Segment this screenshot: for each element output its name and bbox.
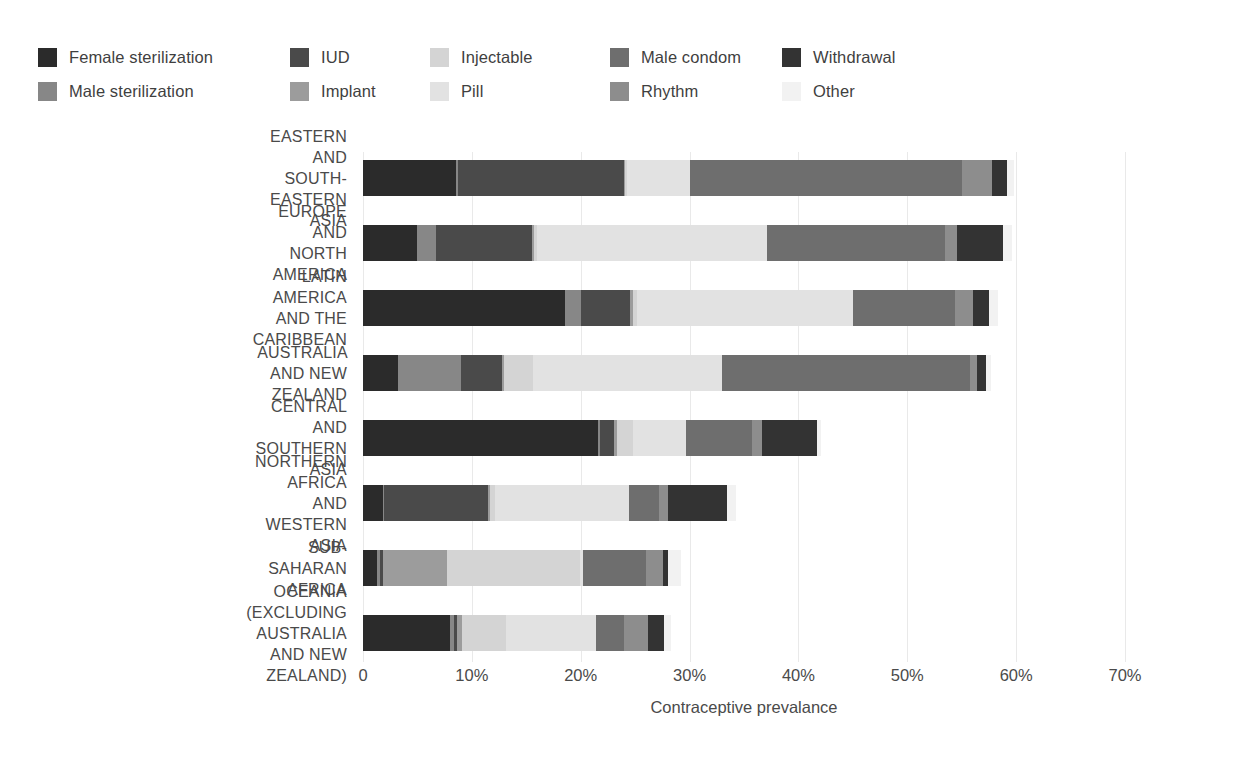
bar-segment[interactable] <box>722 355 970 391</box>
bar-segment[interactable] <box>955 290 972 326</box>
x-axis: Contraceptive prevalance 010%20%30%40%50… <box>363 662 1125 722</box>
stacked-bar[interactable] <box>363 485 736 521</box>
legend-item[interactable]: Male condom <box>610 48 782 67</box>
plot-area: EASTERN AND SOUTH-EASTERN ASIAEUROPE AND… <box>363 152 1125 662</box>
bar-segment[interactable] <box>537 225 767 261</box>
bar-segment[interactable] <box>686 420 751 456</box>
bar-segment[interactable] <box>992 160 1007 196</box>
bar-segment[interactable] <box>565 290 580 326</box>
bar-segment[interactable] <box>767 225 946 261</box>
bar-segment[interactable] <box>668 550 681 586</box>
bar-segment[interactable] <box>727 485 737 521</box>
bar-segment[interactable] <box>363 290 565 326</box>
bar-segment[interactable] <box>383 550 447 586</box>
x-tick-label: 70% <box>1108 666 1141 685</box>
legend-swatch-icon <box>430 82 449 101</box>
legend-swatch-icon <box>38 48 57 67</box>
legend-item[interactable]: Other <box>782 82 962 101</box>
x-tick-label: 50% <box>891 666 924 685</box>
bar-segment[interactable] <box>363 355 398 391</box>
legend-item[interactable]: Female sterilization <box>38 48 290 67</box>
bar-segment[interactable] <box>633 420 686 456</box>
bar-segment[interactable] <box>624 615 648 651</box>
legend-item-label: Male sterilization <box>69 82 194 101</box>
stacked-bar[interactable] <box>363 160 1014 196</box>
bar-segment[interactable] <box>962 160 992 196</box>
bar-row: AUSTRALIA AND NEW ZEALAND <box>363 347 1125 399</box>
legend-item-label: Pill <box>461 82 483 101</box>
legend-item[interactable]: Injectable <box>430 48 610 67</box>
legend-swatch-icon <box>782 48 801 67</box>
bar-row: OCEANIA (EXCLUDING AUSTRALIA AND NEW ZEA… <box>363 607 1125 659</box>
legend-swatch-icon <box>782 82 801 101</box>
bar-segment[interactable] <box>363 160 456 196</box>
bar-row: EUROPE AND NORTH AMERICA <box>363 217 1125 269</box>
stacked-bar[interactable] <box>363 615 671 651</box>
bar-segment[interactable] <box>617 420 633 456</box>
stacked-bar[interactable] <box>363 290 998 326</box>
bar-segment[interactable] <box>1003 225 1012 261</box>
bar-row: NORTHERN AFRICA AND WESTERN ASIA <box>363 477 1125 529</box>
bar-segment[interactable] <box>817 420 821 456</box>
bar-segment[interactable] <box>989 290 998 326</box>
bar-segment[interactable] <box>363 550 377 586</box>
bar-segment[interactable] <box>664 615 671 651</box>
bar-segment[interactable] <box>506 615 596 651</box>
legend-item[interactable]: Implant <box>290 82 430 101</box>
bar-segment[interactable] <box>384 485 489 521</box>
bar-segment[interactable] <box>627 160 689 196</box>
bar-segment[interactable] <box>600 420 614 456</box>
bar-segment[interactable] <box>363 615 450 651</box>
bar-segment[interactable] <box>583 550 646 586</box>
stacked-bar[interactable] <box>363 225 1012 261</box>
bar-segment[interactable] <box>977 355 986 391</box>
bar-segment[interactable] <box>853 290 955 326</box>
legend-item[interactable]: Withdrawal <box>782 48 962 67</box>
bar-segment[interactable] <box>629 485 659 521</box>
bar-segment[interactable] <box>363 485 383 521</box>
bar-segment[interactable] <box>461 355 502 391</box>
bar-segment[interactable] <box>637 290 853 326</box>
stacked-bar[interactable] <box>363 355 991 391</box>
bar-segment[interactable] <box>495 485 629 521</box>
bar-segment[interactable] <box>668 485 727 521</box>
bar-segment[interactable] <box>458 160 625 196</box>
bar-segment[interactable] <box>762 420 816 456</box>
bar-segment[interactable] <box>447 550 580 586</box>
stacked-bar-chart: EASTERN AND SOUTH-EASTERN ASIAEUROPE AND… <box>0 140 1245 700</box>
legend-item[interactable]: IUD <box>290 48 430 67</box>
legend-item[interactable]: Rhythm <box>610 82 782 101</box>
legend-swatch-icon <box>610 82 629 101</box>
bar-segment[interactable] <box>690 160 962 196</box>
legend-item[interactable]: Pill <box>430 82 610 101</box>
bar-segment[interactable] <box>646 550 663 586</box>
bar-segment[interactable] <box>986 355 991 391</box>
legend-swatch-icon <box>610 48 629 67</box>
bar-segment[interactable] <box>659 485 668 521</box>
legend-item[interactable]: Male sterilization <box>38 82 290 101</box>
x-tick-label: 10% <box>455 666 488 685</box>
x-tick-label: 30% <box>673 666 706 685</box>
legend-item-label: Withdrawal <box>813 48 896 67</box>
bar-segment[interactable] <box>436 225 532 261</box>
bar-segment[interactable] <box>581 290 630 326</box>
stacked-bar[interactable] <box>363 550 681 586</box>
bar-segment[interactable] <box>363 225 417 261</box>
stacked-bar[interactable] <box>363 420 821 456</box>
bar-segment[interactable] <box>957 225 1003 261</box>
bar-segment[interactable] <box>533 355 722 391</box>
bar-segment[interactable] <box>363 420 598 456</box>
x-tick-label: 20% <box>564 666 597 685</box>
bar-segment[interactable] <box>398 355 461 391</box>
bar-segment[interactable] <box>648 615 664 651</box>
bar-segment[interactable] <box>596 615 624 651</box>
bar-row: LATIN AMERICA AND THE CARIBBEAN <box>363 282 1125 334</box>
bar-segment[interactable] <box>945 225 957 261</box>
gridline <box>1125 152 1126 662</box>
bar-segment[interactable] <box>462 615 506 651</box>
bar-segment[interactable] <box>504 355 532 391</box>
bar-segment[interactable] <box>973 290 989 326</box>
bar-segment[interactable] <box>417 225 436 261</box>
bar-segment[interactable] <box>752 420 763 456</box>
bar-segment[interactable] <box>1007 160 1014 196</box>
